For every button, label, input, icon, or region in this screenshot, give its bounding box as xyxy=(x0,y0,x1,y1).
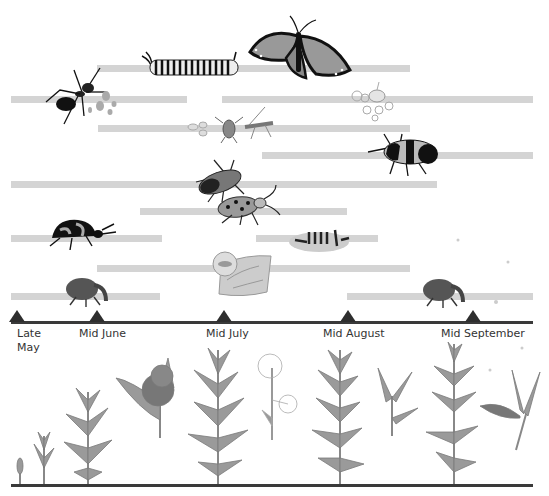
mature-plant-icon xyxy=(312,350,364,484)
leaf-miner-icon xyxy=(207,250,273,300)
flower-cluster-icon xyxy=(116,358,174,438)
leafy-stem-icon xyxy=(64,388,112,484)
ant-icon xyxy=(42,62,122,132)
leaf-beetle-icon xyxy=(46,214,118,252)
tall-plant-late-icon xyxy=(426,342,478,484)
plant-stages-illustration xyxy=(0,340,549,496)
monarch-butterfly-icon xyxy=(246,12,352,82)
stem-weevil-icon xyxy=(64,275,110,307)
tick-marker-mid-september xyxy=(465,310,481,322)
ground-line xyxy=(11,484,533,487)
tall-plant-icon xyxy=(188,348,248,484)
tick-label-mid-september: Mid September xyxy=(441,327,525,341)
monarch-caterpillar-icon xyxy=(140,48,245,82)
aphids-icon xyxy=(345,80,400,122)
leaf-pair-icon xyxy=(378,368,418,436)
sprout-icon xyxy=(17,458,23,484)
tick-marker-mid-july xyxy=(216,310,232,322)
tick-marker-late-may xyxy=(9,310,25,322)
seed-head-flower-icon xyxy=(258,354,297,440)
tick-label-mid-july: Mid July xyxy=(206,327,249,341)
young-shoot-icon xyxy=(34,432,54,484)
tussock-caterpillar-icon xyxy=(287,226,351,256)
tick-marker-mid-august xyxy=(340,310,356,322)
tick-label-mid-august: Mid August xyxy=(323,327,385,341)
tick-label-mid-june: Mid June xyxy=(79,327,126,341)
aphid-predators-icon xyxy=(185,105,285,145)
open-pod-with-seeds-icon xyxy=(480,370,540,450)
tick-marker-mid-june xyxy=(89,310,105,322)
large-milkweed-bug-icon xyxy=(364,132,440,178)
red-milkweed-beetle-icon xyxy=(216,185,282,227)
